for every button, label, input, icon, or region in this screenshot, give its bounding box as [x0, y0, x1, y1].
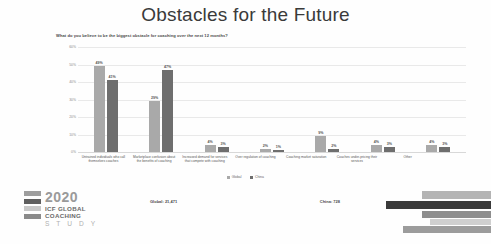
bar-value-label: 3%: [387, 142, 392, 146]
bar-value-label: 4%: [374, 140, 379, 144]
bar-group: 4%3%: [189, 47, 244, 152]
bar-value-label: 1%: [276, 145, 281, 149]
logo-line-4: S T U D Y: [45, 221, 98, 228]
y-axis-tick-label: 40%: [56, 80, 76, 84]
bar-global[interactable]: 4%: [371, 145, 382, 152]
x-axis-label: Coaches under-pricing their services: [332, 155, 383, 164]
logo-bars: [24, 190, 41, 219]
x-axis-label: Untrained individuals who call themselve…: [78, 155, 129, 164]
bar-value-label: 49%: [96, 61, 103, 65]
bar-china[interactable]: 41%: [107, 80, 118, 152]
bar-group: 29%47%: [133, 47, 188, 152]
legend-label: China: [255, 175, 264, 179]
bar-global[interactable]: 4%: [205, 145, 216, 152]
legend-label: Global: [232, 175, 242, 179]
bar-china[interactable]: 3%: [218, 147, 229, 152]
bar-value-label: 47%: [164, 65, 171, 69]
bar-value-label: 4%: [429, 140, 434, 144]
bar-global[interactable]: 9%: [315, 136, 326, 152]
bar-global[interactable]: 4%: [426, 145, 437, 152]
china-count: China: 728: [320, 199, 340, 204]
bar-value-label: 3%: [220, 142, 225, 146]
y-axis-tick-label: 20%: [56, 115, 76, 119]
logo-bar: [24, 191, 41, 196]
x-axis-label: Over regulation of coaching: [230, 155, 281, 164]
logo-bar: [24, 214, 41, 219]
y-axis-tick-label: 0%: [56, 150, 76, 154]
slide: Obstacles for the Future What do you bel…: [0, 0, 491, 244]
bar-value-label: 2%: [263, 144, 268, 148]
y-axis-tick-label: 30%: [56, 98, 76, 102]
logo-bar: [24, 206, 41, 211]
decorative-bars: [370, 188, 491, 234]
x-axis-label: Marketplace confusion about the benefits…: [129, 155, 180, 164]
bar-value-label: 9%: [318, 131, 323, 135]
bar-group: 4%3%: [355, 47, 410, 152]
chart-legend: GlobalChina: [0, 175, 491, 179]
logo-line-2: ICF GLOBAL: [45, 206, 98, 212]
bar-group: 2%1%: [244, 47, 299, 152]
global-count: Global: 21,471: [150, 199, 177, 204]
chart-question-subtitle: What do you believe to be the biggest ob…: [56, 33, 228, 38]
bar-group: 4%3%: [411, 47, 466, 152]
logo-bar: [24, 199, 41, 204]
bar-value-label: 3%: [442, 142, 447, 146]
icf-study-logo: 2020 ICF GLOBAL COACHING S T U D Y: [24, 190, 98, 228]
legend-item-china[interactable]: China: [250, 175, 263, 179]
x-axis-label: Coaching market saturation: [281, 155, 332, 164]
bar-group: 49%41%: [78, 47, 133, 152]
bar-china[interactable]: 47%: [162, 70, 173, 152]
bar-value-label: 2%: [331, 144, 336, 148]
bar-china[interactable]: 1%: [273, 150, 284, 152]
logo-year: 2020: [45, 190, 98, 204]
page-title: Obstacles for the Future: [0, 4, 491, 26]
x-axis-labels: Untrained individuals who call themselve…: [78, 155, 433, 164]
y-axis-tick-label: 60%: [56, 45, 76, 49]
sample-counts: Global: 21,471 China: 728: [150, 199, 340, 204]
bar-global[interactable]: 49%: [94, 66, 105, 152]
gridline: [78, 152, 466, 153]
bar-china[interactable]: 2%: [328, 149, 339, 153]
y-axis-tick-label: 50%: [56, 63, 76, 67]
x-axis-label: Other: [382, 155, 433, 164]
bar-global[interactable]: 2%: [260, 149, 271, 153]
bar-chart: 0%10%20%30%40%50%60% 49%41%29%47%4%3%2%1…: [56, 47, 468, 152]
logo-line-3: COACHING: [45, 213, 98, 219]
x-axis-label: Increased demand for services that compe…: [179, 155, 230, 164]
bar-value-label: 41%: [109, 75, 116, 79]
bar-china[interactable]: 3%: [384, 147, 395, 152]
legend-swatch: [227, 176, 230, 179]
bar-group: 9%2%: [300, 47, 355, 152]
bar-value-label: 4%: [207, 140, 212, 144]
y-axis-tick-label: 10%: [56, 133, 76, 137]
plot-area: 49%41%29%47%4%3%2%1%9%2%4%3%4%3%: [78, 47, 466, 152]
bar-value-label: 29%: [151, 96, 158, 100]
bar-china[interactable]: 3%: [439, 147, 450, 152]
bar-global[interactable]: 29%: [149, 101, 160, 152]
bar-groups: 49%41%29%47%4%3%2%1%9%2%4%3%4%3%: [78, 47, 466, 152]
legend-swatch: [250, 176, 253, 179]
legend-item-global[interactable]: Global: [227, 175, 241, 179]
logo-text: 2020 ICF GLOBAL COACHING S T U D Y: [45, 190, 98, 228]
